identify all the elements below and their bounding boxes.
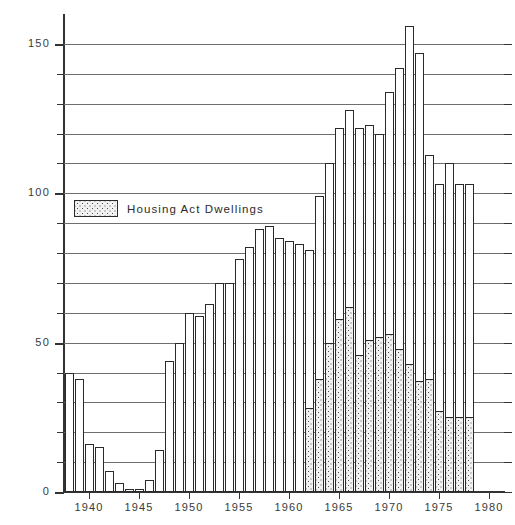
bar-housing-act bbox=[325, 343, 334, 492]
bar-total bbox=[195, 316, 204, 492]
gridline bbox=[64, 104, 504, 105]
y-tick-major bbox=[55, 193, 64, 195]
y-tick-major bbox=[55, 492, 64, 494]
x-tick-label: 1950 bbox=[167, 501, 211, 513]
x-tick bbox=[389, 493, 390, 499]
gridline bbox=[64, 163, 504, 164]
bar-total bbox=[255, 229, 264, 492]
bar-housing-act bbox=[345, 307, 354, 492]
y-tick-major bbox=[55, 44, 64, 46]
bar-housing-act bbox=[395, 349, 404, 492]
bar-housing-act bbox=[385, 334, 394, 492]
x-tick-label: 1955 bbox=[217, 501, 261, 513]
y-tick-label: 0 bbox=[10, 485, 50, 497]
gridline bbox=[64, 74, 504, 75]
bar-housing-act bbox=[315, 379, 324, 492]
bar-housing-act bbox=[305, 408, 314, 492]
bar-total bbox=[95, 447, 104, 492]
y-tick-right bbox=[504, 492, 512, 493]
bar-total bbox=[285, 241, 294, 492]
bar-total bbox=[125, 489, 134, 492]
x-tick-label: 1975 bbox=[417, 501, 461, 513]
x-tick bbox=[439, 493, 440, 499]
y-tick-right bbox=[504, 373, 512, 374]
y-tick-right bbox=[504, 283, 512, 284]
bar-housing-act bbox=[415, 381, 424, 492]
y-tick-right bbox=[504, 432, 512, 433]
x-tick-label: 1945 bbox=[117, 501, 161, 513]
x-tick-label: 1960 bbox=[267, 501, 311, 513]
bar-total bbox=[205, 304, 214, 492]
bar-total bbox=[65, 373, 74, 492]
y-tick-left bbox=[57, 402, 64, 403]
x-tick bbox=[189, 493, 190, 499]
y-tick-left bbox=[57, 253, 64, 254]
bar-total bbox=[265, 226, 274, 492]
x-tick bbox=[239, 493, 240, 499]
bar-housing-act bbox=[425, 379, 434, 492]
y-tick-right bbox=[504, 313, 512, 314]
bar-housing-act bbox=[455, 417, 464, 492]
y-tick-right bbox=[504, 223, 512, 224]
bar-total bbox=[75, 379, 84, 492]
y-tick-right bbox=[504, 343, 512, 344]
bar-total bbox=[105, 471, 114, 492]
bar-total bbox=[295, 244, 304, 492]
bar-housing-act bbox=[375, 337, 384, 492]
y-tick-left bbox=[57, 163, 64, 164]
bar-total bbox=[225, 283, 234, 492]
bar-housing-act bbox=[335, 319, 344, 492]
y-tick-left bbox=[57, 283, 64, 284]
gridline bbox=[64, 134, 504, 135]
x-tick-label: 1980 bbox=[467, 501, 511, 513]
x-tick-label: 1940 bbox=[67, 501, 111, 513]
y-tick-left bbox=[57, 432, 64, 433]
bar-total bbox=[165, 361, 174, 492]
y-tick-left bbox=[57, 313, 64, 314]
y-tick-label: 100 bbox=[10, 186, 50, 198]
y-tick-major bbox=[55, 343, 64, 345]
y-tick-right bbox=[504, 462, 512, 463]
bar-total bbox=[235, 259, 244, 492]
legend-swatch-housing-act bbox=[74, 200, 118, 217]
bar-housing-act bbox=[355, 355, 364, 492]
bar-total bbox=[85, 444, 94, 492]
bar-total bbox=[215, 283, 224, 492]
y-tick-label: 150 bbox=[10, 37, 50, 49]
gridline bbox=[64, 44, 504, 45]
chart-legend: Housing Act Dwellings bbox=[72, 198, 270, 219]
y-tick-left bbox=[57, 134, 64, 135]
bar-housing-act bbox=[435, 411, 444, 492]
bar-total bbox=[275, 238, 284, 492]
bar-total bbox=[245, 247, 254, 492]
x-tick bbox=[89, 493, 90, 499]
x-tick-label: 1970 bbox=[367, 501, 411, 513]
y-tick-right bbox=[504, 44, 512, 45]
bar-total bbox=[185, 313, 194, 492]
y-tick-right bbox=[504, 104, 512, 105]
y-tick-left bbox=[57, 462, 64, 463]
bar-total bbox=[155, 450, 164, 492]
legend-label-housing-act: Housing Act Dwellings bbox=[127, 203, 264, 215]
chart-root: Finished Dwellings (000s) 050100150 1940… bbox=[0, 0, 515, 525]
bar-total bbox=[115, 483, 124, 492]
y-tick-right bbox=[504, 74, 512, 75]
y-tick-right bbox=[504, 253, 512, 254]
bar-housing-act bbox=[405, 364, 414, 492]
bar-housing-act bbox=[445, 417, 454, 492]
y-tick-left bbox=[57, 373, 64, 374]
y-tick-right bbox=[504, 163, 512, 164]
y-tick-right bbox=[504, 134, 512, 135]
bar-housing-act bbox=[465, 417, 474, 492]
y-tick-left bbox=[57, 74, 64, 75]
x-tick bbox=[339, 493, 340, 499]
bar-housing-act bbox=[365, 340, 374, 492]
bar-total bbox=[175, 343, 184, 492]
y-tick-label: 50 bbox=[10, 336, 50, 348]
y-tick-left bbox=[57, 104, 64, 105]
bar-total bbox=[145, 480, 154, 492]
y-tick-left bbox=[57, 223, 64, 224]
x-tick bbox=[139, 493, 140, 499]
y-tick-right bbox=[504, 193, 512, 194]
x-tick bbox=[289, 493, 290, 499]
